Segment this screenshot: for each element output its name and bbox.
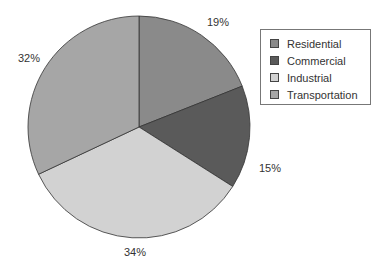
legend-item-residential: Residential	[270, 35, 370, 52]
legend-item-industrial: Industrial	[270, 69, 370, 86]
legend-label: Industrial	[287, 72, 332, 84]
swatch-transportation	[270, 90, 279, 99]
label-industrial: 34%	[124, 246, 146, 258]
label-residential: 19%	[207, 16, 229, 28]
swatch-residential	[270, 39, 279, 48]
label-transportation: 32%	[18, 52, 40, 64]
swatch-industrial	[270, 73, 279, 82]
legend-item-commercial: Commercial	[270, 52, 370, 69]
legend-label: Transportation	[287, 89, 358, 101]
legend-item-transportation: Transportation	[270, 86, 370, 103]
legend-label: Residential	[287, 38, 341, 50]
legend: Residential Commercial Industrial Transp…	[260, 29, 371, 105]
label-commercial: 15%	[259, 162, 281, 174]
swatch-commercial	[270, 56, 279, 65]
legend-label: Commercial	[287, 55, 346, 67]
